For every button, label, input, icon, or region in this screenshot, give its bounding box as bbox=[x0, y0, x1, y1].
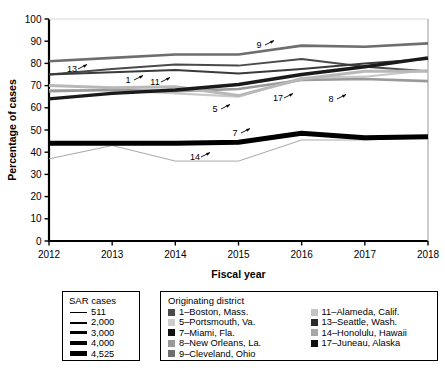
sar-cases-value: 511 bbox=[91, 307, 106, 317]
district-color-swatch bbox=[168, 329, 175, 336]
district-legend-item: 14–Honolulu, Hawaii bbox=[311, 328, 431, 338]
y-tick-label: 30 bbox=[30, 169, 42, 180]
line-thickness-swatch bbox=[70, 341, 87, 345]
district-legend-item: 1–Boston, Mass. bbox=[168, 307, 311, 317]
district-legend-item: 17–Juneau, Alaska bbox=[311, 338, 431, 348]
district-legend-item: 8–New Orleans, La. bbox=[168, 338, 311, 348]
district-color-swatch bbox=[311, 319, 318, 326]
district-label: 9–Cleveland, Ohio bbox=[179, 349, 256, 359]
district-label: 17–Juneau, Alaska bbox=[322, 338, 401, 348]
y-tick-label: 90 bbox=[30, 36, 42, 47]
sar-cases-legend: SAR cases 5112,0003,0004,0004,525 bbox=[62, 291, 140, 361]
originating-district-legend: Originating district 1–Boston, Mass.5–Po… bbox=[160, 291, 438, 361]
y-tick-label: 70 bbox=[30, 80, 42, 91]
callout-17: 17 bbox=[273, 93, 283, 103]
x-tick-label: 2013 bbox=[101, 249, 124, 260]
district-color-swatch bbox=[168, 319, 175, 326]
y-tick-label: 20 bbox=[30, 191, 42, 202]
sar-cases-value: 2,000 bbox=[91, 317, 114, 327]
district-color-swatch bbox=[311, 309, 318, 316]
sar-cases-legend-item: 511 bbox=[69, 307, 134, 317]
district-color-swatch bbox=[311, 329, 318, 336]
district-color-swatch bbox=[168, 309, 175, 316]
sar-cases-legend-item: 2,000 bbox=[69, 317, 134, 327]
y-tick-label: 10 bbox=[30, 213, 42, 224]
district-label: 13–Seattle, Wash. bbox=[322, 317, 398, 327]
district-legend-item: 5–Portsmouth, Va. bbox=[168, 317, 311, 327]
line-chart: 1311159178714 01020304050607080901002012… bbox=[0, 0, 445, 290]
callout-9: 9 bbox=[256, 40, 261, 50]
x-axis-title: Fiscal year bbox=[211, 268, 265, 280]
y-tick-label: 50 bbox=[30, 125, 42, 136]
callout-5: 5 bbox=[212, 104, 217, 114]
x-tick-label: 2012 bbox=[38, 249, 61, 260]
series-lines bbox=[49, 43, 428, 161]
district-label: 7–Miami, Fla. bbox=[179, 328, 235, 338]
callout-14: 14 bbox=[190, 152, 200, 162]
callout-1: 1 bbox=[125, 75, 130, 85]
y-axis-title: Percentage of cases bbox=[6, 79, 18, 181]
y-tick-label: 100 bbox=[25, 14, 42, 25]
district-legend-item: 13–Seattle, Wash. bbox=[311, 317, 431, 327]
district-legend-item: 7–Miami, Fla. bbox=[168, 328, 311, 338]
originating-district-legend-title: Originating district bbox=[168, 295, 431, 306]
district-label: 11–Alameda, Calif. bbox=[322, 307, 400, 317]
line-thickness-swatch bbox=[70, 312, 87, 313]
x-tick-label: 2015 bbox=[227, 249, 250, 260]
sar-cases-legend-rows: 5112,0003,0004,0004,525 bbox=[69, 307, 134, 359]
district-legend-item: 11–Alameda, Calif. bbox=[311, 307, 431, 317]
district-label: 8–New Orleans, La. bbox=[179, 338, 261, 348]
district-label: 1–Boston, Mass. bbox=[179, 307, 248, 317]
callout-11: 11 bbox=[150, 77, 159, 87]
sar-cases-legend-item: 3,000 bbox=[69, 328, 134, 338]
district-legend-column-1: 1–Boston, Mass.5–Portsmouth, Va.7–Miami,… bbox=[168, 307, 311, 359]
y-tick-label: 60 bbox=[30, 102, 42, 113]
sar-cases-legend-item: 4,525 bbox=[69, 349, 134, 359]
callout-13: 13 bbox=[67, 64, 77, 74]
district-legend-column-2: 11–Alameda, Calif.13–Seattle, Wash.14–Ho… bbox=[311, 307, 431, 359]
district-label: 5–Portsmouth, Va. bbox=[179, 317, 255, 327]
district-legend-item: 9–Cleveland, Ohio bbox=[168, 349, 311, 359]
district-legend-columns: 1–Boston, Mass.5–Portsmouth, Va.7–Miami,… bbox=[168, 307, 431, 359]
series-line-9 bbox=[49, 43, 428, 61]
line-thickness-swatch bbox=[70, 331, 87, 334]
x-tick-label: 2014 bbox=[164, 249, 187, 260]
callout-8: 8 bbox=[328, 94, 333, 104]
district-color-swatch bbox=[168, 340, 175, 347]
sar-cases-value: 4,000 bbox=[91, 338, 114, 348]
x-tick-label: 2018 bbox=[417, 249, 440, 260]
series-line-7 bbox=[49, 133, 428, 143]
line-thickness-swatch bbox=[70, 322, 87, 324]
sar-cases-legend-title: SAR cases bbox=[69, 295, 134, 306]
x-tick-label: 2017 bbox=[354, 249, 377, 260]
sar-cases-legend-item: 4,000 bbox=[69, 338, 134, 348]
district-label: 14–Honolulu, Hawaii bbox=[322, 328, 407, 338]
y-tick-label: 80 bbox=[30, 58, 42, 69]
y-tick-label: 40 bbox=[30, 147, 42, 158]
x-tick-label: 2016 bbox=[291, 249, 314, 260]
district-color-swatch bbox=[311, 340, 318, 347]
district-color-swatch bbox=[168, 350, 175, 357]
y-tick-label: 0 bbox=[36, 236, 42, 247]
line-thickness-swatch bbox=[70, 351, 87, 356]
sar-cases-value: 4,525 bbox=[91, 349, 114, 359]
callout-7: 7 bbox=[232, 128, 237, 138]
sar-cases-value: 3,000 bbox=[91, 328, 114, 338]
figure-container: 1311159178714 01020304050607080901002012… bbox=[0, 0, 445, 382]
